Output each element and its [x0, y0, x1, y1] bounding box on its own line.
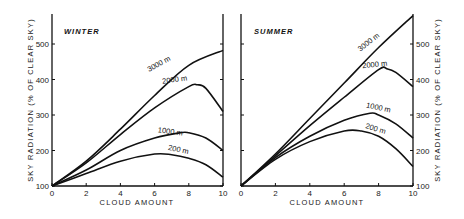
- summer-ticks: 0246810100200300400500: [239, 40, 430, 198]
- summer-curve-label: 1000 m: [365, 101, 391, 115]
- winter-x-tick-label: 0: [50, 189, 55, 198]
- winter-curve-label: 2000 m: [162, 73, 188, 85]
- summer-y-tick-label: 400: [416, 76, 430, 85]
- summer-panel: SUMMER CLOUD AMOUNT SKY RADIATION (% OF …: [239, 14, 442, 207]
- summer-x-tick-label: 2: [273, 189, 278, 198]
- summer-x-tick-label: 8: [376, 189, 381, 198]
- winter-curve-3000m: [52, 50, 223, 186]
- winter-y-label: SKY RADIATION (% OF CLEAR SKY): [26, 18, 35, 182]
- winter-y-tick-label: 200: [36, 147, 50, 156]
- summer-title: SUMMER: [254, 27, 293, 36]
- summer-curve-200m: [241, 130, 413, 186]
- winter-curve-label: 3000 m: [146, 54, 172, 74]
- summer-y-tick-label: 500: [416, 40, 430, 49]
- summer-x-tick-label: 6: [342, 189, 347, 198]
- winter-curve-1000m: [52, 132, 223, 186]
- summer-y-tick-label: 300: [416, 111, 430, 120]
- winter-x-tick-label: 6: [152, 189, 157, 198]
- winter-panel: WINTER CLOUD AMOUNT SKY RADIATION (% OF …: [26, 14, 228, 207]
- summer-x-tick-label: 4: [308, 189, 313, 198]
- winter-x-tick-label: 8: [187, 189, 192, 198]
- summer-curve-1000m: [241, 113, 413, 186]
- winter-y-tick-label: 300: [36, 111, 50, 120]
- winter-y-tick-label: 400: [36, 76, 50, 85]
- summer-y-tick-label: 200: [416, 147, 430, 156]
- winter-x-label: CLOUD AMOUNT: [100, 198, 175, 207]
- summer-curve-3000m: [241, 16, 413, 186]
- summer-y-label: SKY RADIATION (% OF CLEAR SKY): [433, 18, 442, 182]
- winter-x-tick-label: 4: [118, 189, 123, 198]
- winter-curves: 3000 m2000 m1000 m200 m: [52, 50, 223, 186]
- summer-x-tick-label: 0: [239, 189, 244, 198]
- sky-radiation-chart: WINTER CLOUD AMOUNT SKY RADIATION (% OF …: [0, 0, 464, 219]
- summer-curve-2000m: [241, 67, 413, 186]
- winter-title: WINTER: [64, 27, 100, 36]
- summer-curve-label: 200 m: [364, 121, 387, 135]
- winter-x-tick-label: 2: [84, 189, 89, 198]
- summer-y-tick-label: 100: [416, 182, 430, 191]
- summer-x-label: CLOUD AMOUNT: [290, 198, 365, 207]
- summer-curve-label: 2000 m: [362, 59, 388, 71]
- winter-y-tick-label: 100: [36, 182, 50, 191]
- winter-y-tick-label: 500: [36, 40, 50, 49]
- winter-x-tick-label: 10: [219, 189, 228, 198]
- summer-curves: 3000 m2000 m1000 m200 m: [241, 16, 413, 186]
